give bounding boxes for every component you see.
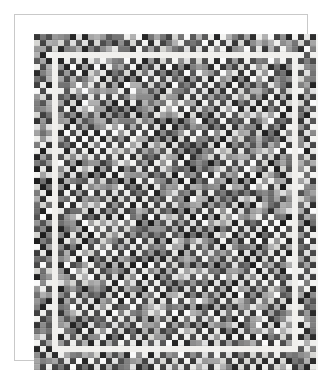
quilt-artwork xyxy=(34,34,318,370)
artwork-canvas: Grayscale Checkerboard Quilt pixel quilt… xyxy=(0,0,322,378)
outer-frame-rule xyxy=(14,14,308,361)
quilt-pattern-canvas xyxy=(34,34,318,370)
